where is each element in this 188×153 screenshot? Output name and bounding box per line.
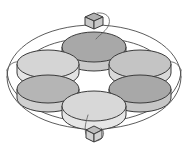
- diagram-canvas: Ring assembly with six disc modules top …: [0, 0, 188, 153]
- disc-bottom-center-top: [62, 91, 126, 121]
- disc-right-upper-top: [109, 50, 171, 78]
- ring-assembly-diagram: [0, 0, 188, 153]
- disc-left-upper-top: [17, 50, 79, 78]
- disc-bottom-center[interactable]: [62, 91, 126, 130]
